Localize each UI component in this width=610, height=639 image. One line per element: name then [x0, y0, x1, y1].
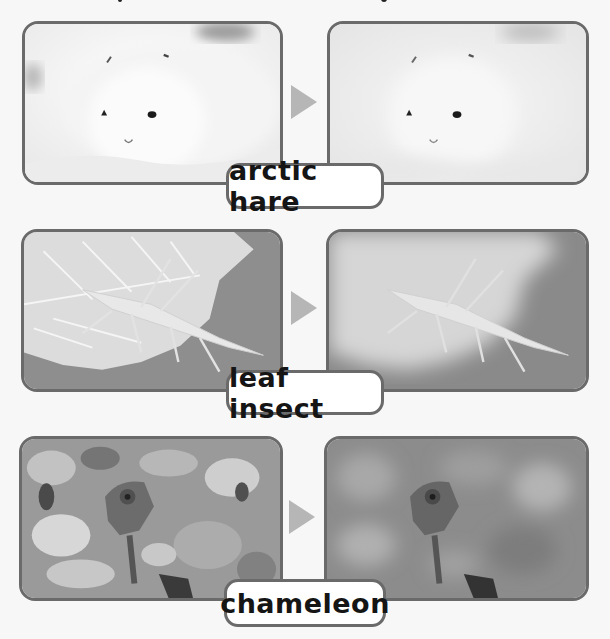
cropped-heading — [0, 0, 610, 2]
leaf-insect-label: leaf insect — [226, 370, 384, 415]
arrow-right-icon — [291, 291, 317, 325]
chameleon-after-image — [324, 436, 589, 601]
chameleon-before-image — [19, 436, 283, 601]
glyph-fragment — [118, 0, 122, 2]
chameleon-label: chameleon — [224, 579, 386, 627]
arrow-right-icon — [289, 500, 315, 534]
glyph-fragment — [381, 0, 387, 2]
arrow-right-icon — [291, 85, 317, 119]
arctic-hare-label: arctic hare — [226, 163, 384, 209]
